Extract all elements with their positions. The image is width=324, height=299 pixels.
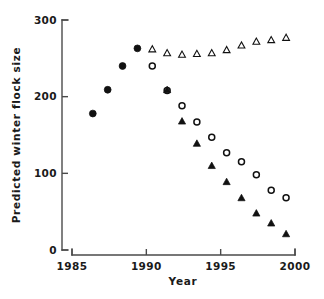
x-tick-label: 2000 [280,260,311,272]
data-point-open-circle [224,150,230,156]
data-point-filled-circle [89,110,96,117]
data-point-filled-circle [119,63,126,70]
data-point-open-circle [149,63,155,69]
data-point-filled-triangle [268,220,275,226]
data-point-open-triangle [164,50,171,56]
data-point-open-circle [283,195,289,201]
chart-figure: 0100200300 1985199019952000 Year Predict… [0,0,324,299]
y-axis: 0100200300 [34,14,68,256]
scatter-plot-canvas: 0100200300 1985199019952000 Year Predict… [0,0,324,299]
data-point-filled-triangle [208,162,215,168]
data-point-filled-triangle [238,194,245,200]
x-tick-label: 1995 [205,260,236,272]
data-point-open-triangle [208,50,215,56]
series-historic-filled-circle [89,45,140,117]
data-point-open-circle [238,159,244,165]
y-tick-labels: 0100200300 [34,14,57,256]
data-point-open-triangle [268,37,275,43]
data-point-filled-triangle [193,140,200,146]
data-point-open-circle [209,134,215,140]
data-point-open-circle [179,103,185,109]
y-tick-label: 200 [34,90,57,102]
data-point-open-triangle [238,42,245,48]
x-axis-title: Year [168,275,198,287]
data-series-layer [89,34,289,237]
x-axis: 1985199019952000 [57,249,311,272]
data-point-filled-triangle [282,230,289,236]
y-tick-label: 100 [34,167,57,179]
y-tick-marks [62,20,68,250]
x-tick-label: 1990 [131,260,162,272]
data-point-filled-circle [104,86,111,93]
data-point-open-triangle [149,46,156,52]
data-point-open-circle [194,119,200,125]
data-point-open-triangle [253,38,260,44]
series-scenario-high-open-triangle [149,34,290,57]
data-point-open-triangle [283,34,290,40]
data-point-open-triangle [179,51,186,57]
data-point-open-circle [268,187,274,193]
data-point-filled-triangle [223,178,230,184]
data-point-filled-triangle [178,118,185,124]
y-tick-label: 300 [34,14,57,26]
y-tick-label: 0 [49,244,57,256]
data-point-open-triangle [193,50,200,56]
y-axis-title: Predicted winter flock size [10,47,22,224]
x-tick-marks [72,249,295,255]
data-point-open-circle [253,172,259,178]
data-point-open-triangle [223,47,230,53]
x-tick-labels: 1985199019952000 [57,260,311,272]
series-scenario-mid-open-circle [149,63,289,201]
x-tick-label: 1985 [57,260,88,272]
data-point-filled-triangle [253,210,260,216]
data-point-filled-circle [134,45,141,52]
